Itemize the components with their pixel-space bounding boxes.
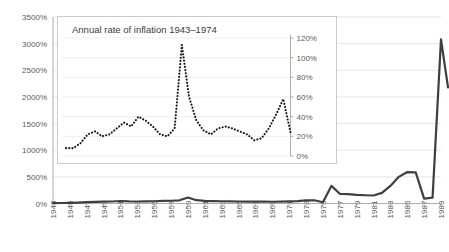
inset-chart-title: Annual rate of inflation 1943–1974 — [72, 24, 217, 35]
inset-y-tick-label: 60% — [297, 93, 313, 102]
inflation-chart-figure: 0%500%1000%1500%2000%2500%3000%3500% 194… — [0, 0, 449, 252]
inset-y-tick-label: 100% — [297, 54, 317, 63]
inset-y-tick-label: 20% — [297, 132, 313, 141]
inset-panel-background — [58, 17, 337, 164]
inset-y-tick-label: 120% — [297, 34, 317, 43]
inset-chart-svg: Annual rate of inflation 1943–1974 120%1… — [0, 0, 449, 252]
inset-y-tick-label: 80% — [297, 73, 313, 82]
inset-y-tick-label: 0% — [297, 152, 309, 161]
inset-y-tick-label: 40% — [297, 113, 313, 122]
